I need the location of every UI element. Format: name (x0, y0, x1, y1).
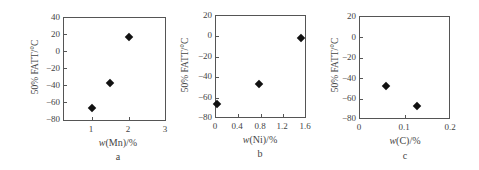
y-tick: −80 (38, 114, 60, 124)
subplot-label: c (395, 150, 415, 161)
y-tick: 20 (38, 29, 60, 39)
x-tick: 0.8 (248, 121, 272, 131)
y-tick: 0 (334, 32, 356, 42)
y-tick: −40 (38, 80, 60, 90)
data-point (382, 82, 390, 90)
data-point (213, 100, 221, 108)
x-tick: 2 (116, 124, 140, 134)
y-tick: −20 (190, 51, 212, 61)
y-tick: 0 (190, 30, 212, 40)
y-tick: 20 (190, 10, 212, 20)
y-tick: 20 (334, 11, 356, 21)
x-tick: 3 (153, 124, 177, 134)
x-axis-label: w(Ni)/% (210, 134, 310, 145)
y-tick: −40 (334, 73, 356, 83)
subplot-label: b (250, 148, 270, 159)
subplot-label: a (108, 151, 128, 162)
data-point (297, 34, 305, 42)
x-tick: 0 (347, 122, 371, 132)
y-tick: 0 (38, 46, 60, 56)
y-tick: −60 (334, 93, 356, 103)
x-tick: 0.4 (225, 121, 249, 131)
x-tick: 1 (79, 124, 103, 134)
y-tick: −20 (38, 63, 60, 73)
y-tick: −60 (190, 92, 212, 102)
x-tick: 0.1 (392, 122, 416, 132)
data-point (88, 104, 96, 112)
x-axis-label: w(Mn)/% (68, 137, 168, 148)
y-tick: −40 (190, 71, 212, 81)
data-point (255, 80, 263, 88)
y-tick: 40 (38, 12, 60, 22)
data-point (413, 102, 421, 110)
y-axis-label: 50% FATT/°C (180, 20, 190, 110)
x-tick: 1.6 (293, 121, 317, 131)
data-point (125, 33, 133, 41)
data-point (106, 79, 114, 87)
y-tick: −20 (334, 52, 356, 62)
y-tick: −60 (38, 97, 60, 107)
plot-area (63, 17, 166, 121)
x-tick: 1.2 (270, 121, 294, 131)
x-tick: 0.2 (438, 122, 462, 132)
plot-area (215, 15, 306, 118)
x-axis-label: w(C)/% (355, 135, 455, 146)
plot-area (359, 16, 450, 119)
x-tick: 0 (203, 121, 227, 131)
